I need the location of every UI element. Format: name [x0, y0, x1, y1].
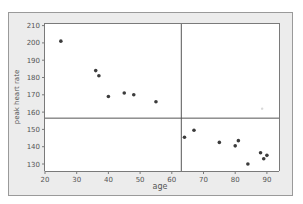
- x-tick-label: 60: [167, 176, 176, 184]
- y-tick-label: 140: [27, 143, 40, 151]
- x-axis-label: age: [153, 182, 168, 191]
- y-tick-label: 170: [27, 91, 40, 99]
- data-point: [122, 91, 126, 95]
- plot-area: [45, 23, 279, 171]
- data-point: [218, 141, 222, 145]
- data-point: [94, 69, 98, 73]
- y-axis-label: peak heart rate: [13, 70, 21, 124]
- y-tick-label: 180: [27, 74, 40, 82]
- data-point: [192, 128, 196, 132]
- x-tick-label: 90: [262, 176, 271, 184]
- x-tick-label: 40: [104, 176, 113, 184]
- x-tick-label: 70: [199, 176, 208, 184]
- data-point: [237, 139, 241, 143]
- y-tick-label: 150: [27, 126, 40, 134]
- y-tick-label: 190: [27, 57, 40, 65]
- data-point: [246, 162, 250, 166]
- y-tick-label: 160: [27, 109, 40, 117]
- data-point: [97, 74, 101, 78]
- x-tick-label: 30: [72, 176, 81, 184]
- chart-canvas: 2030405060708090 13014015016017018019020…: [0, 0, 303, 204]
- data-point: [107, 95, 111, 99]
- x-tick-label: 20: [41, 176, 50, 184]
- y-tick-label: 210: [27, 22, 40, 30]
- data-point: [132, 93, 136, 97]
- faint-data-point: [261, 107, 263, 109]
- x-tick-label: 80: [231, 176, 240, 184]
- data-point: [265, 154, 269, 158]
- data-point: [183, 135, 187, 139]
- data-point: [233, 144, 237, 148]
- x-tick-label: 50: [136, 176, 145, 184]
- data-point: [59, 39, 63, 43]
- y-tick-label: 200: [27, 39, 40, 47]
- data-point: [259, 151, 263, 155]
- data-point: [154, 100, 158, 104]
- scatter-chart: 2030405060708090 13014015016017018019020…: [0, 0, 303, 204]
- data-point: [262, 157, 266, 161]
- y-tick-label: 130: [27, 161, 40, 169]
